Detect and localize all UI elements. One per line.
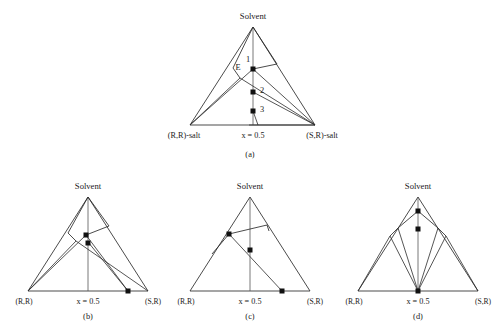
right-vertex-label-a: (S,R)-salt [306,131,338,140]
tie-line-d-4 [418,228,438,291]
apex-label-b: Solvent [75,181,102,191]
point-label-2-a: 2 [260,86,264,95]
caption-c: (c) [203,312,297,321]
tie-line-b-5 [88,242,128,291]
tie-line-d-3 [398,228,418,291]
caption-b: (b) [41,312,135,321]
apex-label-c: Solvent [237,181,264,191]
solubility-curve-c [212,225,267,254]
right-vertex-label-c: (S,R) [307,297,324,306]
axis-label-a: x = 0.5 [241,131,264,140]
panel-a: Solvent E 1 2 3 [150,8,350,160]
figure-ternary-phase-diagrams: Solvent E 1 2 3 [0,0,500,334]
apex-label-d: Solvent [405,181,432,191]
composition-point-c [248,248,253,253]
point-label-E-a: E [235,63,240,72]
saturation-point-b [126,289,131,294]
tie-line-d-6 [446,236,478,291]
caption-a: (a) [203,150,297,159]
left-vertex-label-a: (R,R)-salt [168,131,201,140]
tie-line-d-5 [358,236,390,291]
axis-label-c: x = 0.5 [238,297,261,306]
left-vertex-label-d: (R,R) [345,297,363,306]
tie-line-a-3 [240,78,315,125]
left-vertex-label-c: (R,R) [177,297,195,306]
solubility-curve-right-d [418,211,446,236]
axis-label-b: x = 0.5 [76,297,99,306]
tie-line-b-1 [28,235,86,291]
panel-d: Solvent (R,R) x = 0.5 (S,R) [340,178,500,308]
composition-point-d [416,227,421,232]
point-2-a [251,90,256,95]
eutectic-point-d [416,209,421,214]
axis-label-d: x = 0.5 [406,297,429,306]
solubility-curve-left-d [390,211,418,236]
eutectic-point-b [84,233,89,238]
right-vertex-label-b: (S,R) [145,297,162,306]
point-label-1-a: 1 [246,55,250,64]
tie-line-b-3 [76,241,148,291]
tie-line-d-1 [390,236,418,291]
eutectic-point-c [227,232,232,237]
tie-line-a-2 [190,78,240,125]
point-label-3-a: 3 [260,105,264,114]
racemic-compound-point-d [416,289,421,294]
caption-d: (d) [371,312,465,321]
composition-point-b [86,241,91,246]
tie-line-d-2 [418,236,446,291]
right-vertex-label-d: (S,R) [475,297,492,306]
apex-label-a: Solvent [240,11,267,21]
tie-line-b-2 [28,241,76,291]
point-3-a [251,109,256,114]
saturation-point-c [280,289,285,294]
tie-line-c-1 [229,234,282,291]
panel-b: Solvent (R,R) x = 0.5 (S,R) [10,178,170,308]
left-vertex-label-b: (R,R) [15,297,33,306]
tie-line-b-4 [86,235,128,291]
panel-c: Solvent (R,R) x = 0.5 (S,R) [172,178,332,308]
point-1-a [251,67,256,72]
solubility-curve-right-a [253,27,277,69]
solubility-curve-right-b [86,197,109,235]
